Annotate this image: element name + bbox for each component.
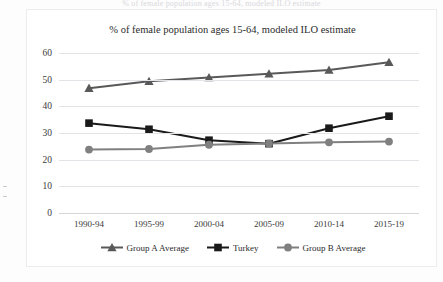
- x-axis-tick-label: 1995-99: [134, 219, 164, 229]
- x-axis-tick-label: 2015-19: [374, 219, 404, 229]
- gridline-30: 30: [59, 133, 419, 134]
- x-axis-labels: 1990-941995-992000-042005-092010-142015-…: [59, 219, 419, 235]
- legend-item[interactable]: Group B Average: [276, 242, 366, 253]
- legend-marker-triangle-icon: [100, 242, 124, 253]
- plot-area: 0102030405060: [59, 53, 419, 213]
- clipped-header-text: % of female population ages 15-64, model…: [0, 0, 443, 8]
- gridline-40: 40: [59, 106, 419, 107]
- gridline-20: 20: [59, 160, 419, 161]
- gridline-0: 0: [59, 213, 419, 214]
- data-point-marker: [385, 138, 393, 146]
- y-axis-tick-label: 0: [47, 208, 52, 218]
- y-axis-tick-label: 40: [43, 101, 53, 111]
- series-line-group-a-average: [89, 62, 389, 88]
- legend-label: Group B Average: [303, 243, 366, 253]
- legend-marker-circle-icon: [276, 242, 300, 253]
- data-point-marker: [205, 141, 213, 149]
- data-point-marker: [325, 138, 333, 146]
- gridline-60: 60: [59, 53, 419, 54]
- edge-tick: [3, 196, 7, 197]
- chart-container: % of female population ages 15-64, model…: [26, 9, 437, 267]
- data-point-marker: [85, 119, 93, 127]
- y-axis-tick-label: 20: [43, 155, 53, 165]
- data-point-marker: [284, 244, 292, 252]
- x-axis-tick-label: 2010-14: [314, 219, 344, 229]
- y-axis-tick-label: 50: [43, 75, 53, 85]
- edge-tick: [3, 186, 7, 187]
- data-point-marker: [385, 112, 393, 120]
- series-line-turkey: [89, 116, 389, 143]
- data-point-marker: [85, 146, 93, 154]
- gridline-50: 50: [59, 80, 419, 81]
- data-point-marker: [265, 140, 273, 148]
- legend-item[interactable]: Turkey: [206, 242, 259, 253]
- gridline-10: 10: [59, 186, 419, 187]
- data-point-marker: [214, 244, 222, 252]
- legend-marker-square-icon: [206, 242, 230, 253]
- data-point-marker: [145, 125, 153, 133]
- y-axis-tick-label: 30: [43, 128, 53, 138]
- legend-item[interactable]: Group A Average: [100, 242, 189, 253]
- data-point-marker: [325, 124, 333, 132]
- chart-screenshot: % of female population ages 15-64, model…: [0, 0, 443, 282]
- left-edge-tick-marks: [3, 186, 9, 220]
- chart-title: % of female population ages 15-64, model…: [27, 24, 438, 35]
- y-axis-tick-label: 60: [43, 48, 53, 58]
- chart-legend: Group A AverageTurkeyGroup B Average: [27, 242, 438, 253]
- x-axis-tick-label: 1990-94: [74, 219, 104, 229]
- legend-label: Group A Average: [127, 243, 189, 253]
- x-axis-tick-label: 2005-09: [254, 219, 284, 229]
- data-point-marker: [145, 145, 153, 153]
- legend-label: Turkey: [233, 243, 259, 253]
- y-axis-tick-label: 10: [43, 181, 53, 191]
- x-axis-tick-label: 2000-04: [194, 219, 224, 229]
